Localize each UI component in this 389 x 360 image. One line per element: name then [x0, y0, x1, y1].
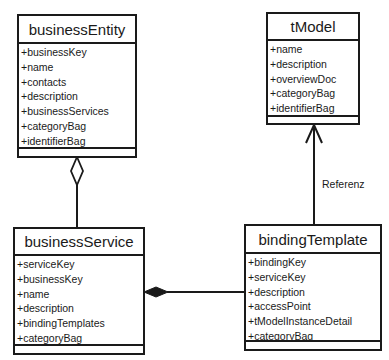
- composition-diamond-icon: [144, 287, 168, 297]
- attribute: +businessServices: [21, 104, 135, 119]
- attribute: +description: [248, 285, 380, 300]
- attribute: +overviewDoc: [270, 72, 358, 87]
- attribute: +businessKey: [21, 45, 135, 60]
- attribute-list: +name +description +overviewDoc +categor…: [268, 41, 358, 116]
- attribute: +tModelInstanceDetail: [248, 314, 380, 329]
- class-tmodel[interactable]: tModel +name +description +overviewDoc +…: [266, 12, 360, 125]
- class-name: bindingTemplate: [246, 226, 380, 254]
- attribute: +serviceKey: [248, 270, 380, 285]
- attribute: +name: [17, 287, 143, 302]
- attribute: +categoryBag: [21, 119, 135, 134]
- class-name: businessService: [15, 229, 143, 256]
- reference-label: Referenz: [322, 178, 365, 190]
- attribute-list: +bindingKey +serviceKey +description +ac…: [246, 254, 380, 344]
- attribute: +accessPoint: [248, 299, 380, 314]
- class-name: businessEntity: [19, 16, 135, 44]
- operations-compartment: [246, 340, 380, 349]
- attribute: +categoryBag: [270, 86, 358, 101]
- attribute: +businessKey: [17, 272, 143, 287]
- attribute-list: +businessKey +name +contacts +descriptio…: [19, 44, 135, 149]
- attribute: +description: [270, 57, 358, 72]
- operations-compartment: [19, 147, 135, 156]
- class-business-entity[interactable]: businessEntity +businessKey +name +conta…: [17, 14, 137, 158]
- attribute: +description: [17, 301, 143, 316]
- attribute: +identifierBag: [270, 101, 358, 116]
- attribute: +bindingKey: [248, 255, 380, 270]
- attribute: +contacts: [21, 75, 135, 90]
- class-name: tModel: [268, 14, 358, 41]
- attribute: +serviceKey: [17, 257, 143, 272]
- attribute: +name: [270, 42, 358, 57]
- attribute: +name: [21, 60, 135, 75]
- attribute: +bindingTemplates: [17, 316, 143, 331]
- class-business-service[interactable]: businessService +serviceKey +businessKey…: [13, 227, 145, 355]
- class-binding-template[interactable]: bindingTemplate +bindingKey +serviceKey …: [244, 224, 382, 351]
- aggregation-diamond-icon: [71, 157, 83, 185]
- operations-compartment: [268, 115, 358, 123]
- attribute: +description: [21, 89, 135, 104]
- attribute-list: +serviceKey +businessKey +name +descript…: [15, 256, 143, 346]
- operations-compartment: [15, 344, 143, 353]
